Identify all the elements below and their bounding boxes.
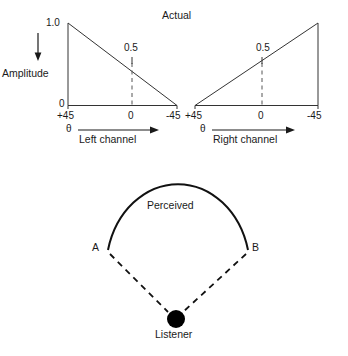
listener-dot [167, 310, 185, 328]
figure-canvas [0, 0, 348, 356]
right-channel-caption: Right channel [213, 134, 277, 145]
right-xtick-label-plus45: +45 [185, 111, 202, 121]
perceived-label: Perceived [147, 200, 194, 211]
right-channel-plot [195, 23, 318, 134]
figure-stereo-panning: Actual 1.0 0 Amplitude 0.5 +45 0 -45 θ L… [0, 0, 348, 356]
speaker-a-label: A [92, 242, 99, 253]
left-ytick-bottom: 0 [59, 99, 65, 109]
left-ytick-top: 1.0 [46, 18, 60, 28]
amplitude-arrow-head [35, 53, 42, 62]
left-xtick-label-minus45: -45 [166, 111, 180, 121]
left-theta-symbol: θ [66, 124, 72, 134]
left-amplitude-ramp [68, 23, 177, 106]
right-midpoint-value: 0.5 [256, 43, 270, 53]
right-theta-symbol: θ [200, 124, 206, 134]
speaker-b-label: B [252, 242, 259, 253]
left-channel-plot [35, 23, 177, 134]
left-theta-arrow-head [150, 126, 159, 133]
perceived-arc [108, 184, 248, 250]
right-theta-arrow-head [286, 126, 295, 133]
amplitude-axis-label: Amplitude [2, 68, 49, 79]
listener-label: Listener [155, 329, 192, 340]
figure-caption-partial [8, 348, 340, 356]
right-amplitude-ramp [195, 23, 318, 106]
left-xtick-label-plus45: +45 [57, 111, 74, 121]
left-xtick-label-zero: 0 [128, 111, 134, 121]
left-midpoint-value: 0.5 [124, 43, 138, 53]
actual-title: Actual [162, 10, 191, 21]
left-channel-caption: Left channel [79, 134, 136, 145]
ray-b-to-listener [183, 254, 246, 312]
right-xtick-label-minus45: -45 [307, 111, 321, 121]
right-xtick-label-zero: 0 [258, 111, 264, 121]
ray-a-to-listener [110, 254, 168, 312]
